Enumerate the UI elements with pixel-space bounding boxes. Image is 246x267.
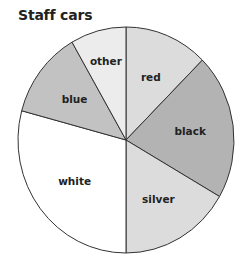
slice-label-red: red xyxy=(141,71,161,83)
slice-label-white: white xyxy=(58,175,91,187)
pie-chart: redblacksilverwhiteblueother xyxy=(0,0,246,267)
slice-label-blue: blue xyxy=(62,93,88,105)
slice-label-silver: silver xyxy=(142,193,175,205)
slice-label-other: other xyxy=(90,55,123,67)
slice-label-black: black xyxy=(174,125,206,137)
